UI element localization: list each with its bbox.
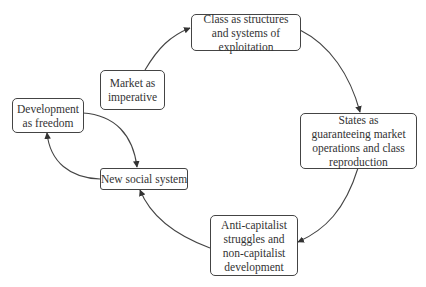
node-label: Market as imperative	[105, 76, 160, 104]
node-development-as-freedom: Development as freedom	[12, 98, 84, 133]
edge-states-to-anti	[298, 168, 358, 242]
node-new-social-system: New social system	[100, 168, 188, 190]
edge-devfree-to-newsys	[83, 113, 137, 167]
node-anti-capitalist-struggles: Anti-capitalist struggles and non-capita…	[210, 215, 298, 276]
edge-market-to-class	[145, 28, 190, 70]
node-label: New social system	[101, 172, 187, 186]
node-label: Class as structures and systems of explo…	[196, 12, 296, 54]
edge-anti-to-newsys	[140, 190, 210, 248]
node-class-as-structures: Class as structures and systems of explo…	[191, 14, 301, 51]
edge-class-to-states	[300, 30, 360, 112]
node-label: Anti-capitalist struggles and non-capita…	[217, 218, 291, 274]
node-market-as-imperative: Market as imperative	[100, 70, 165, 110]
node-label: States as guaranteeing market operations…	[309, 113, 408, 169]
node-states-as-guaranteeing: States as guaranteeing market operations…	[300, 113, 417, 169]
node-label: Development as freedom	[17, 102, 79, 130]
edge-newsys-to-devfree	[47, 133, 100, 179]
